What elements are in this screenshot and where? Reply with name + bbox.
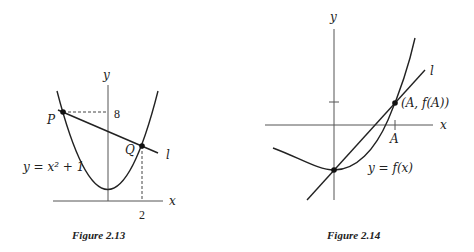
tick-label-2: 2 bbox=[139, 208, 145, 222]
point-p-label: P bbox=[46, 113, 56, 127]
point-a-fa-label: (A, f(A)) bbox=[401, 96, 449, 110]
figures-canvas: y x P Q 8 2 l y = x² + 1 Figure 2.13 y x bbox=[0, 0, 474, 252]
figure-2-13: y x P Q 8 2 l y = x² + 1 Figure 2.13 bbox=[22, 68, 176, 241]
y-axis-label: y bbox=[102, 68, 110, 82]
figure-caption: Figure 2.13 bbox=[71, 229, 126, 241]
tick-label-a: A bbox=[389, 132, 399, 146]
point-p bbox=[60, 109, 66, 115]
tick-label-8: 8 bbox=[114, 107, 120, 121]
y-axis-label: y bbox=[329, 10, 337, 24]
point-q bbox=[139, 143, 145, 149]
x-axis-label: x bbox=[440, 118, 447, 132]
line-l-label: l bbox=[166, 148, 170, 162]
line-l bbox=[307, 70, 425, 200]
line-l-label: l bbox=[430, 64, 434, 78]
point-intercept bbox=[331, 167, 337, 173]
figure-2-14: y x l (A, f(A)) A y = f(x) Figure 2.14 bbox=[265, 10, 449, 241]
point-a-fa bbox=[392, 100, 398, 106]
figure-caption: Figure 2.14 bbox=[326, 229, 381, 241]
curve-equation-label: y = x² + 1 bbox=[22, 160, 84, 174]
point-q-label: Q bbox=[125, 143, 135, 157]
curve-equation-label: y = f(x) bbox=[367, 161, 413, 175]
x-axis-label: x bbox=[169, 194, 176, 208]
